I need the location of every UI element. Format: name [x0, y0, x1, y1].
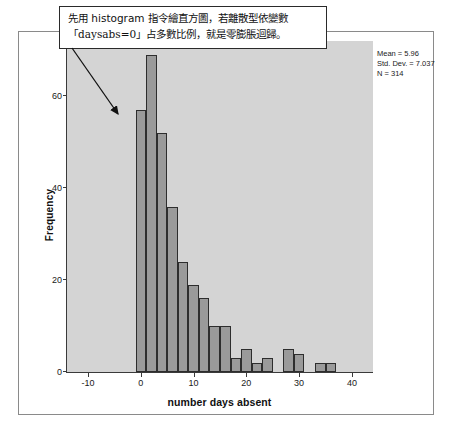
histogram-bar	[178, 262, 189, 372]
histogram-bars	[67, 41, 373, 372]
x-axis-tick-mark	[141, 372, 142, 377]
histogram-bar	[167, 207, 178, 373]
annotation-line-1: 先用 histogram 指令繪直方圖，若離散型依變數	[68, 11, 319, 27]
histogram-bar	[252, 363, 263, 372]
y-axis-tick-mark	[63, 187, 67, 188]
histogram-bar	[283, 349, 294, 372]
histogram-bar	[136, 110, 147, 372]
spss-histogram-output: Frequency 0204060 -10010203040 number da…	[0, 0, 449, 429]
y-axis-tick-label: 0	[57, 368, 67, 377]
histogram-bar	[146, 55, 157, 372]
x-axis-tick-label: 0	[138, 379, 143, 388]
x-axis-title: number days absent	[66, 396, 373, 408]
x-axis-tick-mark	[194, 372, 195, 377]
y-axis-tick-label: 20	[52, 276, 67, 285]
histogram-bar	[294, 354, 305, 372]
x-axis-tick-mark	[246, 372, 247, 377]
statistics-box: Mean = 5.96 Std. Dev. = 7.037 N = 314	[377, 49, 435, 79]
histogram-bar	[157, 133, 168, 372]
annotation-callout: 先用 histogram 指令繪直方圖，若離散型依變數 「daysabs=0」占…	[59, 6, 327, 49]
stat-mean: Mean = 5.96	[377, 49, 435, 59]
annotation-line-2: 「daysabs=0」占多數比例，就是零膨脹迴歸。	[68, 27, 319, 43]
stat-std-dev: Std. Dev. = 7.037	[377, 59, 435, 69]
x-axis-tick-label: 10	[189, 379, 199, 388]
histogram-bar	[199, 298, 210, 372]
histogram-bar	[262, 358, 273, 372]
histogram-bar	[241, 349, 252, 372]
x-axis-tick-mark	[352, 372, 353, 377]
x-axis-tick-label: -10	[82, 379, 95, 388]
y-axis-tick-label: 40	[52, 184, 67, 193]
histogram-bar	[220, 326, 231, 372]
plot-area: 0204060 -10010203040	[66, 41, 373, 373]
y-axis-tick-mark	[63, 95, 67, 96]
histogram-bar	[209, 326, 220, 372]
x-axis-tick-label: 30	[294, 379, 304, 388]
y-axis-tick-mark	[63, 371, 67, 372]
x-axis-tick-label: 40	[347, 379, 357, 388]
x-axis-tick-mark	[88, 372, 89, 377]
histogram-bar	[231, 358, 242, 372]
x-axis-tick-mark	[299, 372, 300, 377]
y-axis-title: Frequency	[44, 188, 55, 240]
histogram-bar	[315, 363, 326, 372]
y-axis-tick-label: 60	[52, 92, 67, 101]
stat-n: N = 314	[377, 69, 435, 79]
histogram-bar	[188, 285, 199, 372]
y-axis-tick-mark	[63, 279, 67, 280]
x-axis-tick-label: 20	[241, 379, 251, 388]
histogram-bar	[326, 363, 337, 372]
